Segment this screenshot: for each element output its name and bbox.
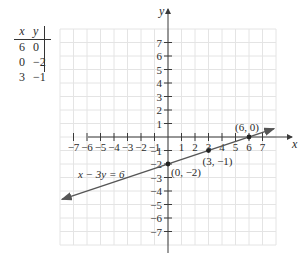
x-tick-label: −4 [108, 141, 120, 153]
point-label-6-0: (6, 0) [235, 121, 259, 134]
y-tick-label: −5 [150, 199, 162, 211]
x-tick-label: 7 [260, 141, 266, 153]
coordinate-plane: xy −7−6−5−4−3−2−11234567−7−6−5−4−3−2−112… [0, 0, 302, 254]
y-tick-label: 5 [157, 64, 163, 76]
y-tick-label: 2 [157, 104, 163, 116]
axes: xy [88, 4, 298, 253]
x-tick-label: 1 [179, 141, 185, 153]
data-point [206, 148, 211, 153]
y-tick-label: 3 [157, 91, 163, 103]
y-tick-label: −1 [150, 145, 162, 157]
equation-label: x − 3y = 6 [77, 168, 125, 180]
x-tick-label: −7 [68, 141, 80, 153]
y-tick-label: −4 [150, 185, 162, 197]
y-tick-label: 6 [157, 50, 163, 62]
x-tick-label: −2 [135, 141, 147, 153]
y-tick-label: 7 [157, 37, 163, 49]
graph-figure: x y 6 0 0 −2 3 −1 xy −7−6−5−4−3−2−112345… [0, 0, 302, 254]
x-tick-label: 2 [192, 141, 198, 153]
x-tick-label: 6 [246, 141, 252, 153]
y-tick-label: −6 [150, 212, 162, 224]
x-axis-label: x [291, 137, 298, 151]
y-tick-label: 1 [157, 118, 163, 130]
y-tick-label: −7 [150, 226, 162, 238]
x-tick-label: −6 [81, 141, 93, 153]
y-tick-label: 4 [157, 77, 163, 89]
y-tick-label: −3 [150, 172, 162, 184]
x-tick-label: −5 [95, 141, 107, 153]
point-label-3-neg1: (3, −1) [203, 155, 233, 168]
data-point [166, 162, 171, 167]
y-axis-label: y [158, 4, 165, 18]
x-tick-label: −3 [122, 141, 134, 153]
data-point [247, 135, 252, 140]
point-label-0-neg2: (0, −2) [171, 166, 201, 179]
